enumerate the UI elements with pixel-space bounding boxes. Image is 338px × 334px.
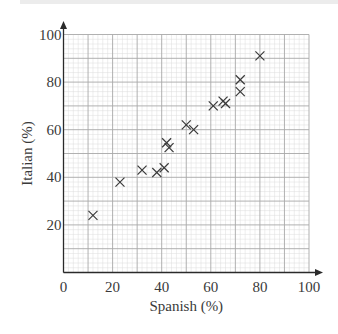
x-tick-label: 60	[203, 279, 218, 295]
x-tick-label: 80	[252, 279, 267, 295]
x-tick-label: 40	[154, 279, 169, 295]
x-tick-label: 100	[298, 279, 321, 295]
major-grid	[64, 35, 310, 273]
y-tick-label: 20	[47, 217, 62, 233]
tick-labels: 02040608010020406080100	[39, 27, 320, 295]
x-tick-label: 20	[105, 279, 120, 295]
x-axis-label: Spanish (%)	[149, 298, 223, 315]
y-tick-label: 40	[47, 169, 62, 185]
x-tick-label: 0	[60, 279, 68, 295]
y-tick-label: 100	[39, 27, 62, 43]
y-tick-label: 80	[47, 74, 62, 90]
scatter-chart: 02040608010020406080100 Spanish (%) Ital…	[0, 0, 338, 334]
y-axis-label: Italian (%)	[19, 121, 36, 186]
y-tick-label: 60	[47, 122, 62, 138]
x-axis-arrow	[315, 269, 323, 276]
